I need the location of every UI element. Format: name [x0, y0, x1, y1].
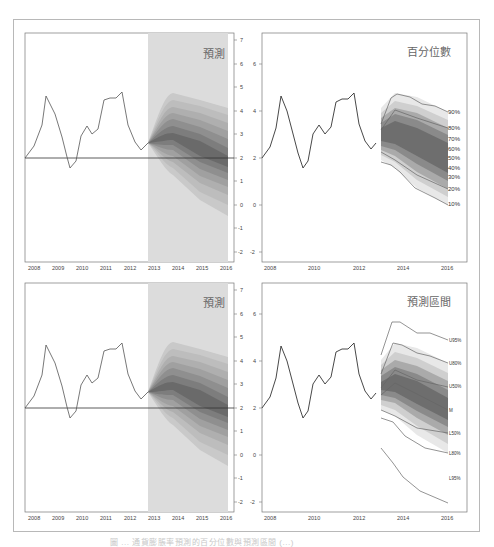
svg-text:-2: -2 [250, 249, 255, 255]
svg-text:5: 5 [240, 84, 243, 90]
svg-text:4: 4 [253, 358, 256, 364]
svg-text:0: 0 [253, 452, 256, 458]
panel-title: 預測 [203, 47, 225, 61]
svg-text:2015: 2015 [196, 515, 208, 521]
svg-text:30%: 30% [448, 174, 461, 180]
y-axis-left: 6 4 2 0 -2 [250, 61, 262, 255]
svg-text:2011: 2011 [100, 515, 112, 521]
svg-text:70%: 70% [448, 136, 461, 142]
svg-text:6: 6 [240, 61, 243, 67]
svg-text:60%: 60% [448, 146, 461, 152]
svg-text:6: 6 [240, 311, 243, 317]
svg-text:2012: 2012 [353, 515, 365, 521]
y-axis-right: 7 6 5 4 3 2 1 0 -1 -2 [234, 37, 243, 255]
svg-text:80%: 80% [448, 125, 461, 131]
svg-text:U50%: U50% [449, 384, 461, 389]
svg-text:-2: -2 [238, 249, 243, 255]
svg-text:2013: 2013 [148, 515, 160, 521]
svg-text:0: 0 [240, 202, 243, 208]
svg-text:2: 2 [253, 155, 256, 161]
interval-chart-bottom-right: 預測區間 U95% U80% U50% M L50% L80% L95% 6 4… [245, 270, 494, 547]
svg-text:L80%: L80% [449, 451, 461, 456]
svg-text:2008: 2008 [264, 515, 276, 521]
figure-caption: 圖 ... 通貨膨脹率預測的百分位數與預測區間 (...) [110, 536, 400, 547]
svg-text:2010: 2010 [76, 515, 88, 521]
svg-text:10%: 10% [448, 201, 461, 207]
svg-text:50%: 50% [448, 155, 461, 161]
svg-text:4: 4 [253, 108, 256, 114]
panel-title: 預測區間 [407, 295, 451, 309]
svg-text:7: 7 [240, 37, 243, 43]
y-axis-left: 6 4 2 0 -2 [250, 311, 262, 505]
svg-text:6: 6 [253, 311, 256, 317]
svg-text:5: 5 [240, 334, 243, 340]
svg-text:3: 3 [240, 381, 243, 387]
svg-text:-2: -2 [250, 499, 255, 505]
svg-text:2014: 2014 [397, 515, 409, 521]
x-axis: 2008 2009 2010 2011 2012 2013 2014 2015 … [28, 515, 232, 521]
svg-text:2008: 2008 [28, 515, 40, 521]
svg-text:2: 2 [253, 405, 256, 411]
fan-chart-bottom-left: 預測 7 6 5 4 3 2 1 0 -1 -2 2008 2009 2010 … [0, 270, 250, 547]
svg-text:U95%: U95% [449, 338, 461, 343]
svg-text:1: 1 [240, 178, 243, 184]
svg-text:1: 1 [240, 428, 243, 434]
svg-text:L95%: L95% [449, 476, 461, 481]
svg-text:40%: 40% [448, 165, 461, 171]
svg-text:-1: -1 [238, 225, 243, 231]
svg-text:L50%: L50% [449, 431, 461, 436]
svg-text:U80%: U80% [449, 361, 461, 366]
svg-text:0: 0 [240, 452, 243, 458]
svg-text:2016: 2016 [220, 515, 232, 521]
svg-text:2012: 2012 [124, 515, 136, 521]
svg-text:3: 3 [240, 131, 243, 137]
svg-text:M: M [449, 408, 453, 413]
svg-text:2010: 2010 [308, 515, 320, 521]
fan-chart-top-left: 預測 7 6 5 4 3 2 1 0 -1 -2 2008 2009 2010 … [0, 0, 250, 280]
svg-text:6: 6 [253, 61, 256, 67]
svg-text:2: 2 [240, 405, 243, 411]
svg-text:2014: 2014 [172, 515, 184, 521]
svg-text:7: 7 [240, 287, 243, 293]
svg-text:0: 0 [253, 202, 256, 208]
x-axis: 2008 2010 2012 2014 2016 [264, 515, 453, 521]
svg-text:2009: 2009 [52, 515, 64, 521]
percentile-chart-top-right: 百分位數 90% 80% 70% 60% 50% 40% 30% 20% 10%… [245, 0, 494, 280]
panel-title: 百分位數 [407, 45, 451, 59]
svg-text:4: 4 [240, 358, 243, 364]
y-axis-right: 7 6 5 4 3 2 1 0 -1 -2 [234, 287, 243, 505]
svg-text:4: 4 [240, 108, 243, 114]
svg-text:2: 2 [240, 155, 243, 161]
svg-text:-2: -2 [238, 499, 243, 505]
svg-text:-1: -1 [238, 475, 243, 481]
svg-text:90%: 90% [448, 109, 461, 115]
panel-title: 預測 [203, 296, 225, 310]
svg-text:20%: 20% [448, 186, 461, 192]
svg-text:2016: 2016 [441, 515, 453, 521]
